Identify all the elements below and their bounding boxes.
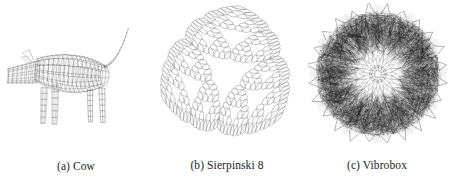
caption-cow: (a) Cow [57,159,95,173]
subfigure-cow: (a) Cow [0,0,152,173]
sierpinski-figure-image [154,2,300,150]
cow-figure-image [7,4,147,150]
caption-vibrobox: (c) Vibrobox [347,158,407,172]
subfigure-vibrobox: (c) Vibrobox [302,0,452,172]
cow-wireframe-canvas [7,4,147,150]
subfigure-sierpinski: (b) Sierpinski 8 [152,0,302,172]
sierpinski-fractal-canvas [154,2,300,150]
caption-sierpinski: (b) Sierpinski 8 [190,158,263,172]
figure-row: (a) Cow (b) Sierpinski 8 (c) Vibrobox [0,0,452,192]
vibrobox-figure-image [308,3,448,150]
vibrobox-wireframe-canvas [308,3,448,150]
